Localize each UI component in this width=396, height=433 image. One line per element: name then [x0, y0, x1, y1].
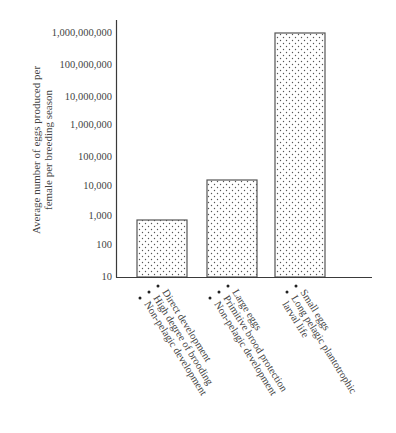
- y-axis-title: Average number of eggs produced per fema…: [30, 66, 54, 234]
- bullet-icon: [218, 291, 221, 294]
- bar-3: [275, 33, 325, 277]
- bullet-icon: [286, 291, 289, 294]
- category-label-line: High degree of brooding: [151, 293, 216, 387]
- svg-text:Average number of eggs produce: Average number of eggs produced per: [30, 66, 42, 234]
- bullet-icon: [157, 285, 160, 288]
- y-tick-label: 10,000,000: [65, 91, 112, 102]
- bar-1: [137, 220, 187, 277]
- bullet-icon: [227, 285, 230, 288]
- category-label-group-3: Small eggsLong pelagic plantotrophiclarv…: [280, 285, 359, 396]
- y-tick-label: 10,000: [83, 180, 112, 191]
- category-label-line: Primitive brood protection: [221, 293, 290, 394]
- category-label-group-2: Large eggsPrimitive brood protectionNon-…: [209, 285, 291, 398]
- category-label-group-1: Direct developmentHigh degree of broodin…: [139, 285, 216, 398]
- bullet-icon: [209, 297, 212, 300]
- y-tick-label: 100,000: [78, 151, 112, 162]
- y-tick-label: 100,000,000: [60, 59, 113, 70]
- bullet-icon: [139, 297, 142, 300]
- y-tick-label: 1,000,000: [70, 119, 112, 130]
- bars: [137, 33, 325, 277]
- y-tick-label: 1,000: [88, 210, 112, 221]
- category-label-line: Long pelagic plantotrophic: [289, 293, 359, 396]
- x-axis-category-labels: Direct developmentHigh degree of broodin…: [139, 285, 360, 398]
- bullet-icon: [295, 285, 298, 288]
- svg-text:female per breeding season: female per breeding season: [42, 89, 54, 210]
- y-tick-label: 10: [102, 271, 113, 282]
- bar-chart: Average number of eggs produced per fema…: [0, 0, 396, 433]
- bar-2: [207, 180, 257, 277]
- y-axis-tick-labels: 101001,00010,000100,0001,000,00010,000,0…: [52, 27, 112, 282]
- y-tick-label: 100: [96, 239, 112, 250]
- y-tick-label: 1,000,000,000: [52, 27, 112, 38]
- bullet-icon: [148, 291, 151, 294]
